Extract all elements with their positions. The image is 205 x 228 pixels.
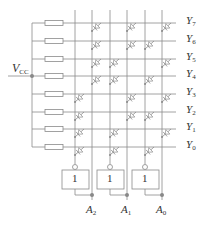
input-label-a1: A1 xyxy=(121,204,131,217)
diode-junction xyxy=(144,83,146,85)
diode-junction xyxy=(126,30,128,32)
output-label-y3: Y3 xyxy=(186,86,196,99)
inverter-bubble-icon xyxy=(143,165,148,170)
diode-junction xyxy=(91,66,93,68)
diode-junction xyxy=(109,83,111,85)
diode-junction xyxy=(126,101,128,103)
buffer-label: 1 xyxy=(72,173,78,184)
input-label-a2: A2 xyxy=(86,204,96,217)
decoder-diagram: VCC Y7Y6Y5Y4Y3Y2Y1Y0 A2A1A0 111 xyxy=(0,0,205,228)
diode-junction xyxy=(91,48,93,50)
diode-junction xyxy=(109,136,111,138)
resistor-icon xyxy=(45,21,63,26)
inverter-bubble-icon xyxy=(108,165,113,170)
diode-junction xyxy=(161,66,163,68)
output-label-y0: Y0 xyxy=(186,139,196,152)
resistor-icon xyxy=(45,127,63,132)
vcc-label: VCC xyxy=(12,62,29,76)
diode-junction xyxy=(126,48,128,50)
resistor-icon xyxy=(45,145,63,150)
inverter-bubble-icon xyxy=(73,165,78,170)
circuit-schematic xyxy=(0,0,205,228)
diode-junction xyxy=(144,119,146,121)
diode-junction xyxy=(144,154,146,156)
resistor-icon xyxy=(45,74,63,79)
buffer-label: 1 xyxy=(142,173,148,184)
output-label-y7: Y7 xyxy=(186,15,196,28)
resistor-icon xyxy=(45,39,63,44)
buffer-label: 1 xyxy=(107,173,113,184)
resistor-icon xyxy=(45,110,63,115)
input-label-a0: A0 xyxy=(156,204,166,217)
diode-junction xyxy=(91,30,93,32)
diode-junction xyxy=(109,66,111,68)
output-label-y1: Y1 xyxy=(186,121,196,134)
output-label-y5: Y5 xyxy=(186,51,196,64)
diode-junction xyxy=(74,136,76,138)
output-label-y6: Y6 xyxy=(186,33,196,46)
resistor-icon xyxy=(45,92,63,97)
diode-junction xyxy=(126,119,128,121)
diode-junction xyxy=(161,101,163,103)
output-label-y2: Y2 xyxy=(186,104,196,117)
input-junction-dot xyxy=(90,193,94,197)
input-junction-dot xyxy=(160,193,164,197)
diode-junction xyxy=(91,83,93,85)
diode-junction xyxy=(109,154,111,156)
diode-junction xyxy=(144,48,146,50)
input-junction-dot xyxy=(125,193,129,197)
diode-junction xyxy=(74,154,76,156)
diode-junction xyxy=(74,101,76,103)
diode-junction xyxy=(74,119,76,121)
diode-junction xyxy=(161,30,163,32)
diode-junction xyxy=(161,136,163,138)
output-label-y4: Y4 xyxy=(186,68,196,81)
resistor-icon xyxy=(45,57,63,62)
